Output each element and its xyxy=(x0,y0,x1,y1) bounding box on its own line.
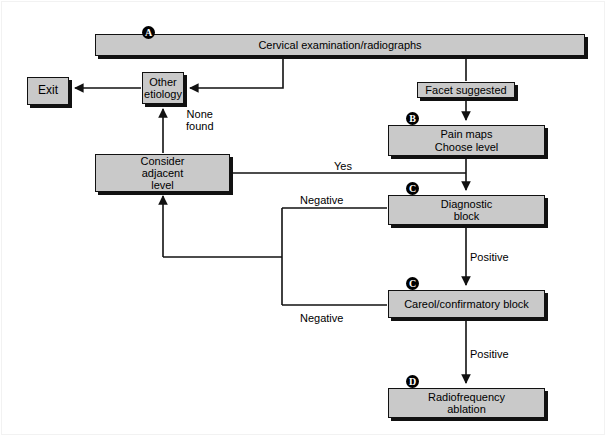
edge-label-yes: Yes xyxy=(334,160,352,172)
node-label: Diagnostic block xyxy=(437,198,496,223)
step-marker-a: A xyxy=(142,26,155,39)
node-other-etiology[interactable]: Other etiology xyxy=(142,72,184,104)
node-careol-confirmatory-block[interactable]: Careol/confirmatory block xyxy=(388,290,545,318)
node-label: Radiofrequency ablation xyxy=(424,391,509,416)
step-marker-b: B xyxy=(406,112,419,125)
node-label: Pain maps Choose level xyxy=(431,128,503,153)
node-label: Exit xyxy=(34,84,62,97)
node-facet-suggested[interactable]: Facet suggested xyxy=(417,82,515,98)
node-label: Cervical examination/radiographs xyxy=(254,39,425,51)
node-cervical-exam[interactable]: Cervical examination/radiographs xyxy=(95,34,585,56)
node-pain-maps[interactable]: Pain maps Choose level xyxy=(388,125,545,156)
step-marker-d: D xyxy=(406,375,419,388)
node-label: Careol/confirmatory block xyxy=(400,298,533,310)
edge-label-negative-lower: Negative xyxy=(300,312,343,324)
edge-label-negative-upper: Negative xyxy=(300,194,343,206)
step-marker-c-careol: C xyxy=(406,277,419,290)
connector-exam-to-other-etiology xyxy=(190,57,283,88)
node-label: Other etiology xyxy=(140,76,186,101)
node-diagnostic-block[interactable]: Diagnostic block xyxy=(388,195,545,225)
node-exit[interactable]: Exit xyxy=(27,77,69,105)
edge-label-positive-lower: Positive xyxy=(470,348,509,360)
node-label: Facet suggested xyxy=(421,84,510,96)
edge-label-positive-upper: Positive xyxy=(470,251,509,263)
step-marker-c-diagnostic: C xyxy=(406,182,419,195)
node-label: Consider adjacent level xyxy=(136,155,188,192)
node-consider-adjacent-level[interactable]: Consider adjacent level xyxy=(95,154,230,192)
node-radiofrequency-ablation[interactable]: Radiofrequency ablation xyxy=(388,388,545,418)
flowchart-canvas: Cervical examination/radiographs Exit Ot… xyxy=(0,0,608,438)
edge-label-none-found: None found xyxy=(186,108,214,133)
